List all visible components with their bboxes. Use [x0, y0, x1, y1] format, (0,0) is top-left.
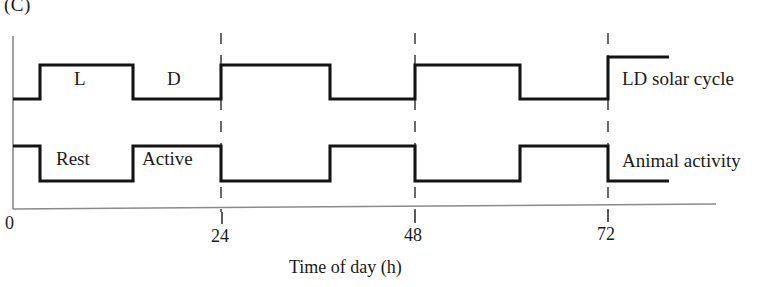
animal-activity-label: Animal activity: [622, 150, 741, 172]
x-axis-title: Time of day (h): [289, 257, 402, 278]
x-tick-label-0: 0: [5, 213, 14, 234]
panel-label: (C): [4, 0, 31, 16]
x-tick-label-48: 48: [404, 225, 422, 246]
x-tick-label-24: 24: [211, 226, 229, 247]
figure-panel-c: (C) L D Rest Active LD solar cycle Anima…: [0, 0, 772, 287]
ld-solar-cycle-trace: [13, 57, 669, 99]
x-tick-label-72: 72: [597, 224, 615, 245]
activity-phase-label-rest: Rest: [56, 148, 90, 170]
chart-canvas: [0, 0, 772, 287]
x-axis-line: [13, 204, 716, 209]
day-boundary-lines: [221, 33, 608, 212]
ld-phase-label-dark: D: [167, 68, 181, 90]
ld-phase-label-light: L: [74, 68, 86, 90]
animal-activity-trace: [13, 146, 669, 181]
activity-phase-label-active: Active: [142, 148, 193, 170]
x-axis-ticks: [222, 210, 608, 224]
ld-solar-cycle-label: LD solar cycle: [622, 68, 734, 90]
